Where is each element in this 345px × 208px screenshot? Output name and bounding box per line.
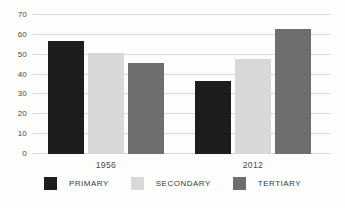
bar-primary-1956 xyxy=(48,41,84,154)
plot-area: 19562012 xyxy=(33,15,330,154)
legend-swatch-primary xyxy=(44,177,57,190)
bar-tertiary-2012 xyxy=(275,29,311,154)
y-tick-label: 20 xyxy=(18,110,27,118)
y-tick-label: 60 xyxy=(18,31,27,39)
bar-group-2012: 2012 xyxy=(195,15,311,154)
x-axis-label-1956: 1956 xyxy=(48,160,164,170)
y-tick-label: 10 xyxy=(18,130,27,138)
legend-item-tertiary: TERTIARY xyxy=(233,177,301,190)
legend-item-primary: PRIMARY xyxy=(44,177,109,190)
legend-label-primary: PRIMARY xyxy=(69,179,109,188)
y-tick-label: 70 xyxy=(18,11,27,19)
bar-secondary-2012 xyxy=(235,59,271,154)
bar-groups: 19562012 xyxy=(33,15,330,154)
y-tick-label: 30 xyxy=(18,90,27,98)
bar-group-1956: 1956 xyxy=(48,15,164,154)
bar-secondary-1956 xyxy=(88,53,124,154)
legend-item-secondary: SECONDARY xyxy=(131,177,211,190)
y-tick-label: 40 xyxy=(18,71,27,79)
bar-tertiary-1956 xyxy=(128,63,164,154)
bar-primary-2012 xyxy=(195,81,231,154)
x-axis-label-2012: 2012 xyxy=(195,160,311,170)
legend-label-secondary: SECONDARY xyxy=(156,179,211,188)
y-axis-labels: 010203040506070 xyxy=(0,15,27,154)
legend-label-tertiary: TERTIARY xyxy=(258,179,301,188)
y-tick-label: 50 xyxy=(18,51,27,59)
legend: PRIMARYSECONDARYTERTIARY xyxy=(0,177,345,190)
bar-chart: 010203040506070 19562012 PRIMARYSECONDAR… xyxy=(0,0,345,208)
legend-swatch-tertiary xyxy=(233,177,246,190)
y-tick-label: 0 xyxy=(22,150,27,158)
legend-swatch-secondary xyxy=(131,177,144,190)
